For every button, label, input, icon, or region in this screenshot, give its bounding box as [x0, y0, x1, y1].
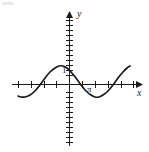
graph-figure: y x 1 π: [0, 0, 149, 152]
pi-tick-label: π: [87, 85, 92, 94]
y-axis-arrowhead: [66, 11, 73, 18]
y-axis-label: y: [77, 9, 81, 19]
cosine-curve: [18, 66, 130, 97]
unit-value-label: 1: [62, 66, 67, 75]
x-axis-label: x: [137, 88, 141, 98]
coordinate-plot: [0, 0, 149, 152]
